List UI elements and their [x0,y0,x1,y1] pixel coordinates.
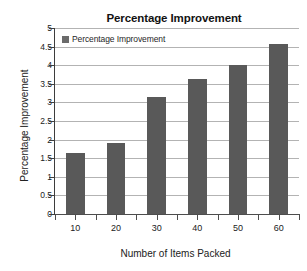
bar-series-percentage-improvement [55,28,299,214]
bar-slot [66,28,85,214]
bar-chart-figure: Percentage Improvement Percentage Improv… [0,0,307,271]
x-axis-tick-mark [299,214,300,220]
x-axis-tick-mark [116,214,117,220]
x-axis-tick-labels: 102030405060 [55,223,299,237]
x-axis-title: Number of Items Packed [48,248,303,259]
x-axis-tick-marks [55,214,300,220]
x-axis-tick-mark [238,214,239,220]
x-axis-tick-mark [177,214,178,220]
chart-legend: Percentage Improvement [62,34,165,44]
x-axis-tick-mark [258,214,259,220]
x-axis-tick-mark [136,214,137,220]
x-axis-tick-mark [279,214,280,220]
legend-swatch-icon [62,36,69,43]
bar-slot [107,28,126,214]
x-axis-tick-label: 20 [96,223,136,233]
x-axis-tick-mark [157,214,158,220]
x-axis-tick-mark [55,214,56,220]
x-axis-tick-mark [75,214,76,220]
bar [147,97,166,214]
bar [66,153,85,214]
bar-slot [269,28,288,214]
plot-area: Percentage Improvement [55,28,299,214]
x-axis-tick-label: 30 [137,223,177,233]
x-axis-tick-label: 10 [55,223,95,233]
x-axis-tick-mark [197,214,198,220]
bar-slot [147,28,166,214]
x-axis-tick-mark [218,214,219,220]
x-axis-tick-mark [96,214,97,220]
bar [229,65,248,214]
bar [269,44,288,214]
chart-title: Percentage Improvement [48,12,300,24]
bar [188,79,207,214]
legend-label: Percentage Improvement [72,34,165,44]
x-axis-tick-label: 60 [259,223,299,233]
bar-slot [188,28,207,214]
bar-slot [229,28,248,214]
x-axis-tick-label: 50 [218,223,258,233]
bar [107,143,126,214]
x-axis-tick-label: 40 [177,223,217,233]
